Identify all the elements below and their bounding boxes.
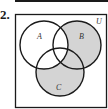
set-c-label: C (56, 83, 62, 92)
set-a-label: A (36, 32, 42, 41)
set-b-label: B (79, 32, 84, 41)
venn-diagram: A B C U (0, 0, 108, 109)
